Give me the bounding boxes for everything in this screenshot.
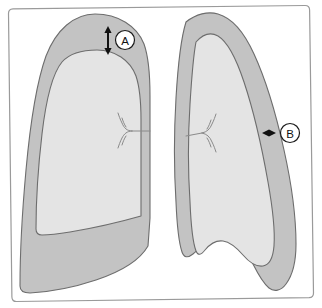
marker-a-label: A xyxy=(121,35,129,47)
marker-b-label: B xyxy=(286,128,294,140)
figure-canvas: A B xyxy=(0,0,322,308)
pneumothorax-figure: A B xyxy=(0,0,322,308)
